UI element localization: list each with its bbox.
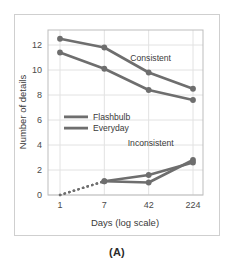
data-point-marker <box>190 86 196 92</box>
data-point-marker <box>146 172 152 178</box>
legend-label: Everyday <box>93 123 130 133</box>
y-axis-tick-labels: 024681012 <box>32 40 42 200</box>
y-tick-label: 0 <box>37 190 42 200</box>
data-point-marker <box>190 97 196 103</box>
x-tick-label: 7 <box>102 200 107 210</box>
figure-caption: (A) <box>0 246 234 258</box>
line-chart: 024681012 1742224 ConsistentInconsistent… <box>14 14 220 236</box>
data-point-marker <box>146 180 152 186</box>
y-tick-label: 12 <box>32 40 42 50</box>
chart-annotation: Inconsistent <box>128 138 174 148</box>
y-tick-label: 6 <box>37 115 42 125</box>
y-axis-title: Number of details <box>17 75 28 150</box>
data-point-marker <box>57 36 63 42</box>
data-point-marker <box>190 160 196 166</box>
data-point-marker <box>146 70 152 76</box>
data-point-marker <box>101 45 107 51</box>
y-tick-label: 2 <box>37 165 42 175</box>
x-tick-label: 224 <box>185 200 200 210</box>
chart-annotation: Consistent <box>130 53 171 63</box>
data-point-marker <box>101 66 107 72</box>
figure-panel: 024681012 1742224 ConsistentInconsistent… <box>0 0 234 276</box>
legend-label: Flashbulb <box>93 112 130 122</box>
data-point-marker <box>57 50 63 56</box>
y-tick-label: 10 <box>32 65 42 75</box>
data-point-marker <box>101 178 107 184</box>
y-tick-label: 4 <box>37 140 42 150</box>
y-tick-label: 8 <box>37 90 42 100</box>
x-tick-label: 1 <box>57 200 62 210</box>
data-point-marker <box>146 87 152 93</box>
x-tick-label: 42 <box>144 200 154 210</box>
x-axis-title: Days (log scale) <box>91 217 159 228</box>
x-axis-tick-labels: 1742224 <box>57 200 200 210</box>
